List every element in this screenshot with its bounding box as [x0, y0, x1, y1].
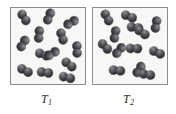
- atom: [154, 48, 166, 60]
- molecule: [148, 45, 166, 60]
- atom: [72, 48, 81, 57]
- atom: [103, 15, 115, 27]
- molecule: [126, 44, 142, 54]
- molecule: [60, 56, 78, 73]
- molecule: [99, 8, 114, 26]
- molecule: [133, 24, 151, 40]
- molecule: [36, 67, 53, 78]
- container-panel-right: [92, 7, 168, 85]
- molecule: [138, 69, 155, 81]
- atom: [116, 66, 126, 76]
- molecule: [62, 15, 80, 31]
- molecule: [58, 71, 76, 84]
- atom: [150, 23, 160, 33]
- atom: [43, 68, 53, 78]
- molecule: [34, 26, 45, 43]
- molecule: [43, 46, 61, 62]
- panel-label-t2-letter: T: [123, 92, 130, 106]
- molecule: [150, 16, 162, 33]
- molecule: [55, 28, 69, 46]
- atom: [109, 33, 119, 43]
- molecule: [15, 34, 31, 52]
- panel-label-t2-subscript: 2: [130, 98, 134, 107]
- atom: [145, 70, 155, 80]
- atom: [22, 66, 34, 78]
- panel-label-t1: T1: [41, 92, 52, 107]
- molecule: [109, 26, 121, 43]
- atom: [57, 34, 68, 45]
- atom: [65, 73, 76, 84]
- gas-molecule-figure: T1 T2: [0, 0, 176, 114]
- molecule: [16, 8, 32, 26]
- molecule: [72, 41, 82, 57]
- atom: [34, 33, 44, 43]
- container-panel-left: [10, 7, 86, 85]
- panel-label-t1-subscript: 1: [48, 98, 52, 107]
- panel-label-t1-letter: T: [41, 92, 48, 106]
- molecule: [109, 65, 126, 76]
- molecule: [42, 7, 56, 25]
- molecule: [16, 63, 34, 78]
- panel-label-t2: T2: [123, 92, 134, 107]
- atom: [133, 44, 142, 53]
